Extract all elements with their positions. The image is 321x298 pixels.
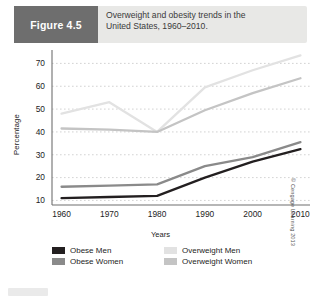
series-line-obese-men (62, 149, 301, 198)
legend-label-obese-men: Obese Men (70, 246, 111, 255)
y-axis-label: Percentage (12, 105, 21, 165)
x-tick-label: 2000 (243, 209, 262, 219)
y-tick-label: 30 (36, 150, 46, 160)
x-tick-label: 1980 (148, 209, 167, 219)
y-tick-label: 20 (36, 172, 46, 182)
y-tick-label: 10 (36, 195, 46, 205)
legend-swatch-overweight-women (164, 258, 177, 265)
x-tick-label: 1990 (196, 209, 215, 219)
legend-label-obese-women: Obese Women (70, 257, 123, 266)
series-line-obese-women (62, 142, 301, 187)
legend-item-overweight-men: Overweight Men (164, 246, 292, 255)
legend-item-overweight-women: Overweight Women (164, 257, 292, 266)
chart-plot-area: 10203040506070196019701980199020002010 P… (0, 44, 321, 244)
legend-item-obese-men: Obese Men (52, 246, 164, 255)
legend-label-overweight-women: Overweight Women (182, 257, 252, 266)
figure-caption: Overweight and obesity trends in the Uni… (106, 10, 302, 33)
y-tick-label: 40 (36, 127, 46, 137)
y-tick-label: 50 (36, 104, 46, 114)
legend-label-overweight-men: Overweight Men (182, 246, 240, 255)
figure-caption-line-1: Overweight and obesity trends in the (106, 10, 302, 21)
x-tick-label: 1970 (100, 209, 119, 219)
line-chart: 10203040506070196019701980199020002010 (0, 44, 321, 244)
x-axis-label: Years (0, 230, 321, 239)
y-tick-label: 70 (36, 58, 46, 68)
legend-swatch-overweight-men (164, 247, 177, 254)
figure-caption-line-2: United States, 1960–2010. (106, 21, 302, 32)
figure-container: Figure 4.5 Overweight and obesity trends… (0, 0, 321, 298)
y-tick-label: 60 (36, 81, 46, 91)
page-edge-artifact (8, 288, 48, 296)
legend-item-obese-women: Obese Women (52, 257, 164, 266)
legend-swatch-obese-men (52, 247, 65, 254)
x-tick-label: 1960 (52, 209, 71, 219)
legend-swatch-obese-women (52, 258, 65, 265)
copyright-notice: © Cengage Learning 2013 (290, 178, 296, 246)
figure-number-tag: Figure 4.5 (14, 6, 98, 43)
chart-legend: Obese Men Overweight Men Obese Women Ove… (52, 246, 292, 266)
